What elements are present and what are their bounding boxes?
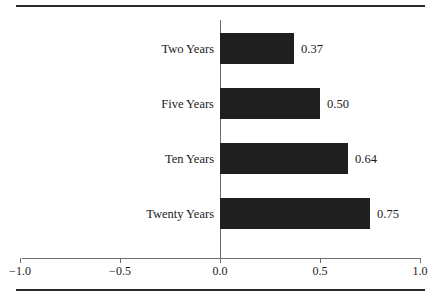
bar	[220, 198, 370, 229]
x-tick-mark	[220, 258, 221, 263]
x-axis-line	[22, 258, 421, 259]
x-tick-label: 0.5	[313, 264, 328, 278]
category-label: Two Years	[161, 42, 214, 56]
x-tick-mark	[120, 258, 121, 263]
plot-area: −1.0−0.50.00.51.0 Two Years0.37Five Year…	[0, 0, 437, 299]
bar	[220, 88, 320, 119]
bar	[220, 143, 348, 174]
x-tick-mark	[320, 258, 321, 263]
value-label: 0.75	[377, 207, 399, 221]
x-tick-label: −0.5	[109, 264, 131, 278]
value-label: 0.50	[327, 97, 349, 111]
x-tick-mark	[420, 258, 421, 263]
value-label: 0.37	[301, 42, 323, 56]
bar-chart-figure: −1.0−0.50.00.51.0 Two Years0.37Five Year…	[0, 0, 437, 299]
value-label: 0.64	[355, 152, 377, 166]
x-tick-mark	[20, 258, 21, 263]
category-label: Twenty Years	[146, 207, 214, 221]
bar	[220, 33, 294, 64]
x-tick-label: −1.0	[9, 264, 31, 278]
category-label: Five Years	[161, 97, 214, 111]
x-tick-label: 1.0	[413, 264, 428, 278]
category-label: Ten Years	[165, 152, 214, 166]
x-tick-label: 0.0	[213, 264, 228, 278]
